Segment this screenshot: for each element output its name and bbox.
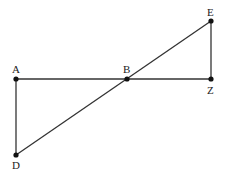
label-Z: Z [207, 84, 214, 96]
label-D: D [12, 159, 20, 171]
label-B: B [123, 63, 130, 75]
label-E: E [207, 6, 214, 18]
point-A [13, 76, 18, 81]
label-A: A [12, 63, 20, 75]
segment-DE [16, 21, 211, 155]
point-B [124, 76, 129, 81]
point-D [13, 152, 18, 157]
point-Z [208, 76, 213, 81]
geometry-diagram: A B Z E D [0, 0, 228, 175]
point-E [208, 18, 213, 23]
